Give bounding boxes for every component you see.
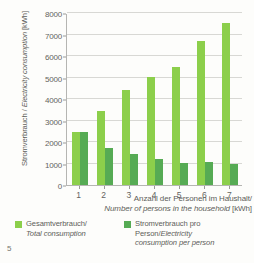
legend-item-per-person-consumption[interactable]: Stromverbrauch proPerson/Electricitycons… <box>124 219 252 248</box>
legend-label-total-de: Gesamtverbrauch/ <box>26 219 87 228</box>
chart-page: Stromverbrauch / Electricity consumption… <box>0 0 254 263</box>
bar-total-consumption[interactable] <box>222 23 230 185</box>
bar-group <box>217 14 242 185</box>
x-axis-title-unit: [kWh] <box>232 204 252 213</box>
bar-total-consumption[interactable] <box>97 111 105 185</box>
bar-per-person-consumption[interactable] <box>130 154 138 185</box>
bar-group <box>92 14 117 185</box>
bars-container <box>67 14 242 185</box>
x-axis-title: Anzahl der Personen im Haushalt/ Number … <box>40 194 252 214</box>
x-axis-tick-mark <box>129 186 130 189</box>
bar-total-consumption[interactable] <box>147 77 155 185</box>
y-axis-tick-labels: 010002000300040005000600070008000 <box>36 8 62 190</box>
y-axis-title-unit: [kWh] <box>20 11 29 32</box>
bar-per-person-consumption[interactable] <box>105 148 113 185</box>
x-axis-title-de: Anzahl der Personen im Haushalt/ <box>134 194 252 203</box>
legend-label-total: Gesamtverbrauch/Total consumption <box>26 219 87 238</box>
x-axis-tick-mark <box>229 186 230 189</box>
legend-label-per-person-en2: consumption per person <box>135 238 214 247</box>
bar-total-consumption[interactable] <box>172 67 180 185</box>
y-axis-tick-label: 0 <box>36 182 62 191</box>
y-axis-tick-label: 5000 <box>36 74 62 83</box>
y-axis-title-de: Stromverbrauch / <box>20 107 29 166</box>
bar-group <box>67 14 92 185</box>
y-axis-tick-label: 1000 <box>36 160 62 169</box>
legend-label-per-person-de: Stromverbrauch pro <box>135 219 200 228</box>
x-axis-tick-mark <box>204 186 205 189</box>
y-axis-tick-label: 6000 <box>36 53 62 62</box>
bar-total-consumption[interactable] <box>72 132 80 185</box>
bar-per-person-consumption[interactable] <box>155 159 163 185</box>
y-axis-title: Stromverbrauch / Electricity consumption… <box>20 0 29 179</box>
plot-area <box>66 14 242 186</box>
bar-per-person-consumption[interactable] <box>80 132 88 185</box>
y-axis-tick-label: 8000 <box>36 10 62 19</box>
bar-per-person-consumption[interactable] <box>205 162 213 185</box>
bar-group <box>167 14 192 185</box>
legend-label-per-person-de2: Person/ <box>135 229 160 238</box>
bar-per-person-consumption[interactable] <box>230 164 238 186</box>
y-axis-tick-label: 7000 <box>36 31 62 40</box>
x-axis-tick-mark <box>104 186 105 189</box>
bar-per-person-consumption[interactable] <box>180 163 188 185</box>
y-axis-title-en: Electricity consumption <box>20 32 29 107</box>
plot-wrapper: 010002000300040005000600070008000 123456… <box>36 8 242 190</box>
legend-swatch-icon-per-person <box>124 221 131 228</box>
x-axis-tick-mark <box>79 186 80 189</box>
bar-group <box>142 14 167 185</box>
legend-item-total-consumption[interactable]: Gesamtverbrauch/Total consumption <box>15 219 123 238</box>
y-axis-tick-label: 2000 <box>36 139 62 148</box>
legend-swatch-icon-total <box>15 221 22 228</box>
legend-label-total-en: Total consumption <box>26 229 86 238</box>
bar-total-consumption[interactable] <box>197 41 205 185</box>
y-axis-tick-label: 3000 <box>36 117 62 126</box>
y-axis-tick-label: 4000 <box>36 96 62 105</box>
x-axis-title-en: Number of persons in the household <box>104 204 230 213</box>
bar-group <box>117 14 142 185</box>
bar-group <box>192 14 217 185</box>
bar-total-consumption[interactable] <box>122 90 130 185</box>
legend-label-per-person-en: Electricity <box>160 229 191 238</box>
bar-chart-figure: Stromverbrauch / Electricity consumption… <box>0 0 254 215</box>
chart-legend: Gesamtverbrauch/Total consumption Stromv… <box>0 216 254 256</box>
x-axis-tick-mark <box>179 186 180 189</box>
gridline <box>67 12 242 13</box>
page-number: 5 <box>7 244 11 253</box>
legend-label-per-person: Stromverbrauch proPerson/Electricitycons… <box>135 219 214 248</box>
x-axis-tick-mark <box>154 186 155 189</box>
